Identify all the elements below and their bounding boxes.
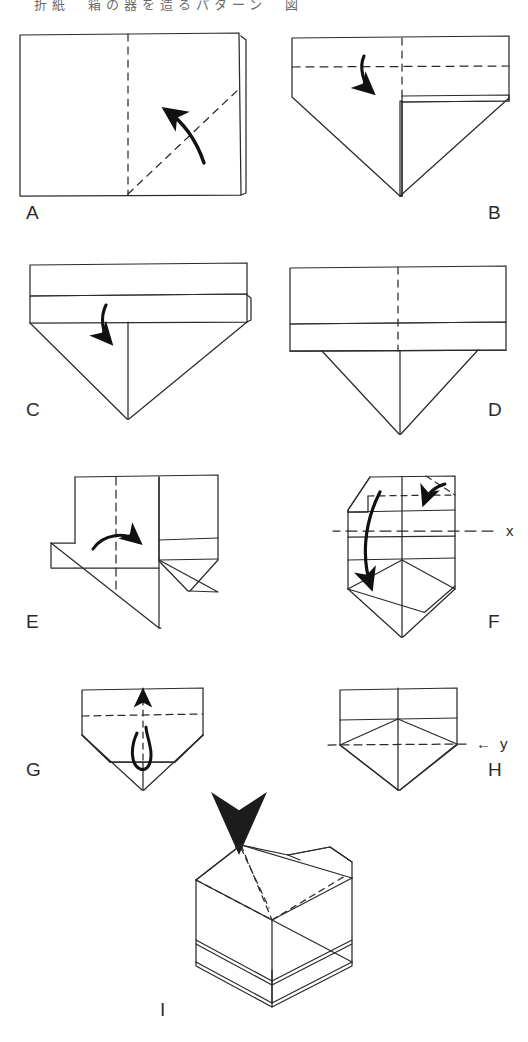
step-label-f: F [488,612,500,631]
reference-mark-x: x [506,523,514,538]
step-b-figure [292,36,509,196]
step-i-figure [196,812,352,1007]
step-a-figure [20,33,246,196]
diagram-canvas [0,0,528,1042]
step-label-d: D [488,400,502,419]
step-label-h: H [488,760,502,779]
reference-mark-y-arrow: ← [476,736,493,751]
reference-mark-y: y [500,736,508,751]
step-label-g: G [26,760,41,779]
step-g-figure [82,688,203,790]
step-label-i: I [160,1000,166,1019]
step-f-figure [333,476,493,637]
origami-diagram-page: 折紙 箱の器を造るパターン 図 [0,0,528,1042]
step-c-figure [30,263,251,419]
step-label-a: A [26,203,39,222]
step-h-figure [328,688,470,790]
step-label-b: B [488,203,501,222]
step-e-figure [51,475,218,628]
step-label-c: C [26,400,40,419]
step-d-figure [290,266,506,434]
step-label-e: E [26,612,39,631]
